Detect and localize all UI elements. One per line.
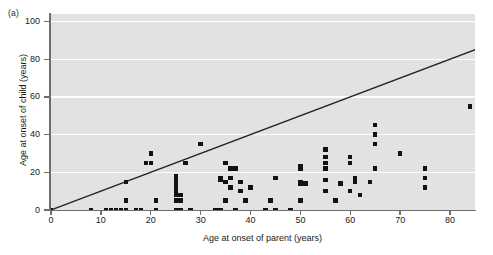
data-point [348, 189, 352, 193]
data-point [213, 208, 217, 210]
data-point [288, 208, 292, 210]
y-tick-60 [44, 96, 49, 97]
data-point [243, 198, 247, 202]
data-point [298, 180, 302, 184]
data-point [188, 208, 192, 210]
data-point [124, 198, 128, 202]
data-point [353, 176, 357, 180]
data-point [223, 180, 227, 184]
data-point [423, 176, 427, 180]
data-point [358, 193, 362, 197]
y-tick-label-20: 20 [10, 168, 40, 177]
data-point [124, 208, 128, 210]
data-point [218, 176, 222, 180]
data-point [273, 208, 277, 210]
y-tick-40 [44, 134, 49, 135]
data-point [149, 151, 153, 155]
data-point [238, 189, 242, 193]
data-point [373, 132, 377, 136]
data-point [368, 180, 372, 184]
data-point [174, 208, 178, 210]
data-point [468, 104, 472, 108]
data-point [178, 198, 182, 202]
data-point [373, 142, 377, 146]
data-point [323, 189, 327, 193]
data-point [373, 166, 377, 170]
identity-reference-line [51, 14, 475, 210]
y-tick-20 [44, 172, 49, 173]
data-point [89, 208, 93, 210]
y-tick-80 [44, 59, 49, 60]
data-point [114, 208, 118, 210]
data-point [273, 176, 277, 180]
data-point [423, 166, 427, 170]
data-point [298, 164, 302, 168]
data-point [218, 208, 222, 210]
data-point [109, 208, 113, 210]
x-tick-label-80: 80 [435, 216, 465, 225]
data-point [323, 155, 327, 159]
data-point [348, 161, 352, 165]
data-point [323, 161, 327, 165]
data-point [154, 198, 158, 202]
data-point [228, 176, 232, 180]
data-point [144, 161, 148, 165]
x-tick-label-30: 30 [186, 216, 216, 225]
data-point [323, 166, 327, 170]
data-point [233, 208, 237, 210]
data-point [134, 208, 138, 210]
data-point [119, 208, 123, 210]
data-point [104, 208, 108, 210]
data-point [348, 155, 352, 159]
data-point [333, 198, 337, 202]
data-point [398, 151, 402, 155]
data-point [223, 161, 227, 165]
data-point [323, 147, 327, 151]
data-point [154, 208, 158, 210]
data-point [223, 198, 227, 202]
x-tick-label-60: 60 [335, 216, 365, 225]
data-point [149, 161, 153, 165]
data-point [124, 180, 128, 184]
gridline-y-60 [51, 96, 475, 97]
x-tick-label-70: 70 [385, 216, 415, 225]
data-point [139, 208, 143, 210]
data-point [298, 198, 302, 202]
gridline-y-40 [51, 134, 475, 135]
y-tick-label-0: 0 [10, 206, 40, 215]
gridline-y-100 [51, 21, 475, 22]
x-tick-label-0: 0 [36, 216, 66, 225]
data-point [238, 180, 242, 184]
y-tick-label-100: 100 [10, 17, 40, 26]
data-point [248, 185, 252, 189]
data-point [228, 185, 232, 189]
y-tick-label-60: 60 [10, 92, 40, 101]
y-tick-0 [44, 209, 49, 210]
data-point [268, 198, 272, 202]
figure-panel-a: (a) Age at onset of child (years) Age at… [0, 0, 493, 255]
y-tick-100 [44, 21, 49, 22]
x-tick-label-20: 20 [136, 216, 166, 225]
x-tick-label-50: 50 [285, 216, 315, 225]
data-point [51, 208, 53, 210]
data-point [174, 174, 178, 178]
gridline-y-20 [51, 172, 475, 173]
data-point [228, 166, 232, 170]
data-point [178, 193, 182, 197]
data-point [338, 181, 342, 185]
x-tick-label-40: 40 [236, 216, 266, 225]
y-tick-label-80: 80 [10, 55, 40, 64]
data-point [174, 193, 178, 197]
data-point [423, 185, 427, 189]
gridline-y-80 [51, 59, 475, 60]
data-point [303, 181, 307, 185]
data-point [373, 123, 377, 127]
plot-area [51, 14, 475, 210]
data-point [174, 198, 178, 202]
x-axis-title: Age at onset of parent (years) [50, 233, 475, 243]
data-point [183, 161, 187, 165]
y-tick-label-40: 40 [10, 130, 40, 139]
data-point [263, 208, 267, 210]
x-tick-label-10: 10 [86, 216, 116, 225]
data-point [323, 178, 327, 182]
